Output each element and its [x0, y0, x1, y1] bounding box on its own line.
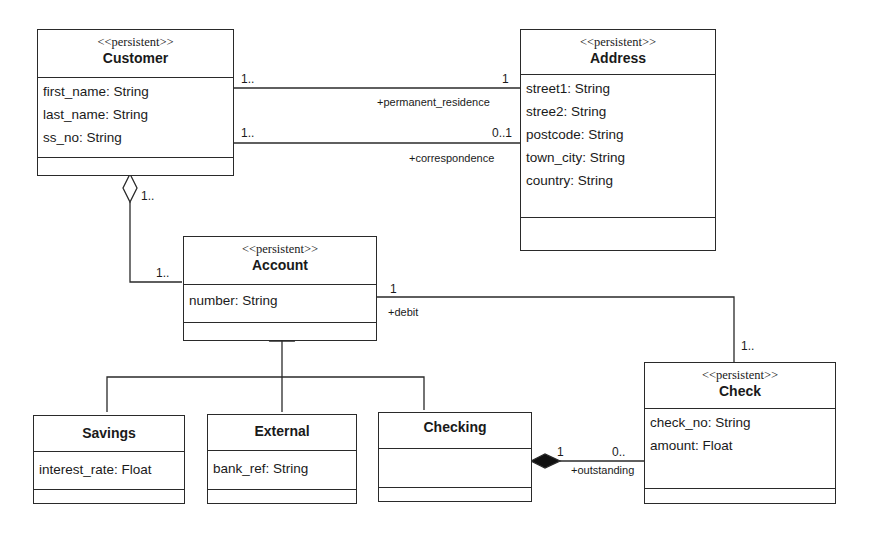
filled-diamond-icon [531, 454, 560, 468]
attribute: stree2: String [526, 100, 715, 123]
class-address-header: <<persistent>> Address [521, 30, 715, 75]
role-label: +correspondence [409, 152, 494, 164]
attribute: street1: String [526, 77, 715, 100]
attribute: interest_rate: Float [39, 458, 184, 481]
class-external[interactable]: External bank_ref: String [207, 414, 357, 504]
multiplicity-label: 1.. [156, 267, 169, 279]
class-customer[interactable]: <<persistent>> Customer first_name: Stri… [37, 29, 234, 176]
stereotype-label: <<persistent>> [184, 237, 376, 257]
multiplicity-label: 1 [557, 446, 564, 458]
class-address[interactable]: <<persistent>> Address street1: String s… [520, 29, 716, 251]
class-name: Account [184, 257, 376, 274]
class-name: Address [521, 50, 715, 67]
class-external-header: External [208, 415, 356, 451]
association-debit-line [377, 297, 734, 362]
attribute-compartment: first_name: String last_name: String ss_… [38, 78, 233, 158]
attribute-compartment: check_no: String amount: Float [645, 409, 835, 489]
class-savings-header: Savings [34, 416, 184, 452]
multiplicity-label: 1 [502, 73, 509, 85]
class-name: Savings [34, 425, 184, 442]
attribute: country: String [526, 169, 715, 192]
multiplicity-label: 1.. [241, 73, 254, 85]
stereotype-label: <<persistent>> [521, 30, 715, 50]
attribute: ss_no: String [43, 126, 233, 149]
multiplicity-label: 1.. [241, 127, 254, 139]
multiplicity-label: 0.. [612, 446, 625, 458]
role-label: +permanent_residence [377, 96, 490, 108]
attribute: last_name: String [43, 103, 233, 126]
class-savings[interactable]: Savings interest_rate: Float [33, 415, 185, 504]
attribute-compartment [379, 449, 531, 488]
class-account[interactable]: <<persistent>> Account number: String [183, 236, 377, 341]
hollow-diamond-icon [123, 174, 137, 202]
class-check[interactable]: <<persistent>> Check check_no: String am… [644, 362, 836, 504]
class-checking-header: Checking [379, 413, 531, 449]
attribute-compartment: interest_rate: Float [34, 452, 184, 490]
stereotype-label: <<persistent>> [38, 30, 233, 50]
role-label: +debit [388, 306, 418, 318]
role-label: +outstanding [571, 464, 634, 476]
class-name: Checking [379, 419, 531, 436]
attribute-compartment: bank_ref: String [208, 451, 356, 490]
class-name: External [208, 423, 356, 440]
stereotype-label: <<persistent>> [645, 363, 835, 383]
multiplicity-label: 1.. [741, 340, 754, 352]
attribute: number: String [189, 289, 376, 312]
class-checking[interactable]: Checking [378, 412, 532, 502]
class-account-header: <<persistent>> Account [184, 237, 376, 285]
attribute: postcode: String [526, 123, 715, 146]
multiplicity-label: 1.. [141, 190, 154, 202]
attribute: town_city: String [526, 146, 715, 169]
generalization-branch-line [107, 377, 424, 412]
multiplicity-label: 1 [390, 283, 397, 295]
attribute: first_name: String [43, 80, 233, 103]
attribute: amount: Float [650, 434, 835, 457]
class-check-header: <<persistent>> Check [645, 363, 835, 409]
class-name: Check [645, 383, 835, 400]
attribute-compartment: number: String [184, 285, 376, 323]
attribute: check_no: String [650, 411, 835, 434]
attribute: bank_ref: String [213, 457, 356, 480]
attribute-compartment: street1: String stree2: String postcode:… [521, 75, 715, 218]
multiplicity-label: 0..1 [492, 127, 512, 139]
class-customer-header: <<persistent>> Customer [38, 30, 233, 78]
class-name: Customer [38, 50, 233, 67]
